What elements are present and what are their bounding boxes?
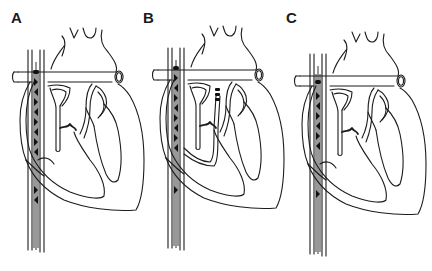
panel-c xyxy=(295,32,427,256)
panel-b xyxy=(153,26,285,250)
heart-catheter-figure: A B C xyxy=(0,0,432,271)
panel-a xyxy=(13,28,145,252)
figure-canvas xyxy=(0,0,432,271)
